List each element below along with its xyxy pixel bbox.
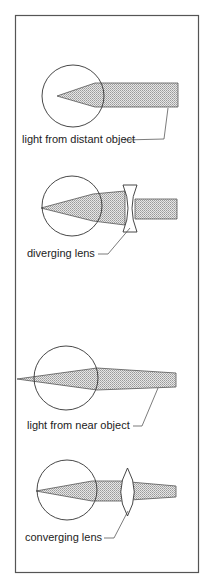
panel-near-object: light from near object: [17, 346, 176, 431]
leader-line: [104, 511, 128, 538]
panel-label: converging lens: [25, 531, 103, 543]
panel-converging-lens: converging lens: [25, 460, 176, 543]
eye-lens-diagram: light from distant object diverging lens…: [0, 0, 213, 576]
light-beam: [135, 199, 177, 219]
light-beam: [57, 83, 178, 107]
converging-lens-icon: [121, 468, 135, 516]
light-beam: [41, 191, 125, 225]
panel-diverging-lens: diverging lens: [27, 176, 177, 259]
leader-line: [133, 388, 158, 426]
panel-label: light from distant object: [22, 133, 135, 145]
panel-label: light from near object: [27, 419, 130, 431]
light-beam: [36, 481, 125, 501]
light-beam: [130, 482, 176, 500]
panel-label: diverging lens: [27, 247, 95, 259]
panel-distant-object: light from distant object: [22, 65, 178, 145]
